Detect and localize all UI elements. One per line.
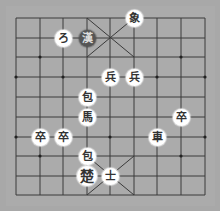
piece-cannon-top[interactable]: ろ <box>55 30 72 47</box>
star-point-marker <box>108 135 111 138</box>
piece-pawn-left-2[interactable]: 卒 <box>55 129 72 146</box>
star-point-marker <box>179 55 182 58</box>
piece-cannon-1[interactable]: 包 <box>79 89 96 106</box>
piece-pawn-right[interactable]: 卒 <box>173 109 190 126</box>
piece-advisor[interactable]: 士 <box>102 168 119 185</box>
star-point-marker <box>155 75 158 78</box>
piece-soldier-2[interactable]: 兵 <box>126 69 143 86</box>
star-point-marker <box>14 135 17 138</box>
piece-general-chu[interactable]: 楚 <box>77 166 97 186</box>
piece-elephant-top[interactable]: 象 <box>126 10 143 27</box>
star-point-marker <box>203 75 206 78</box>
piece-horse[interactable]: 馬 <box>79 109 96 126</box>
star-point-marker <box>14 75 17 78</box>
star-point-marker <box>61 75 64 78</box>
piece-cannon-2[interactable]: 包 <box>79 148 96 165</box>
xiangqi-board: 象ろ漢兵兵包馬卒卒卒車包楚士 <box>0 0 220 211</box>
star-point-marker <box>38 154 41 157</box>
star-point-marker <box>38 55 41 58</box>
star-point-marker <box>179 154 182 157</box>
star-point-marker <box>203 135 206 138</box>
piece-chariot[interactable]: 車 <box>149 129 166 146</box>
piece-soldier-1[interactable]: 兵 <box>102 69 119 86</box>
piece-pawn-left-1[interactable]: 卒 <box>32 129 49 146</box>
piece-general-han[interactable]: 漢 <box>79 30 96 47</box>
